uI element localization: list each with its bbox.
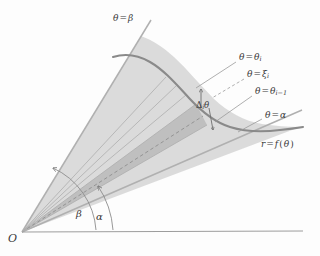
label-angle-beta: β xyxy=(76,209,82,219)
polar-axis xyxy=(22,231,303,232)
label-theta-equals-xi-i: θ=ξi xyxy=(247,70,269,80)
alpha-symbol: α xyxy=(280,110,286,120)
equals-sign: = xyxy=(252,69,262,79)
label-theta-equals-beta: θ=β xyxy=(113,14,133,23)
label-delta-i-theta: Δiθ xyxy=(196,101,209,110)
leader-theta-xi xyxy=(212,79,244,98)
label-angle-alpha: α xyxy=(96,212,103,222)
equals-sign: = xyxy=(270,110,280,120)
label-origin: O xyxy=(8,233,17,244)
leader-theta-i xyxy=(196,62,236,88)
equals-sign: = xyxy=(244,52,254,62)
subscript-i: i xyxy=(267,72,269,80)
subscript-i: i xyxy=(259,55,261,63)
label-theta-equals-alpha: θ=α xyxy=(265,111,286,120)
close-paren: ) xyxy=(289,139,295,149)
equals-sign: = xyxy=(265,139,275,149)
subscript-i-minus-1: i−1 xyxy=(275,89,287,97)
label-theta-equals-theta-i: θ=θi xyxy=(239,53,261,63)
beta-symbol: β xyxy=(128,13,133,23)
label-theta-equals-theta-i-minus-1: θ=θi−1 xyxy=(255,87,287,97)
polar-sector-diagram: θ=β θ=θi θ=ξi θ=θi−1 θ=α r=f(θ) Δiθ β α … xyxy=(0,0,320,256)
theta-symbol: θ xyxy=(204,100,209,110)
equals-sign: = xyxy=(260,86,270,96)
label-curve-equation: r=f(θ) xyxy=(261,140,295,149)
equals-sign: = xyxy=(118,13,128,23)
diagram-canvas xyxy=(0,0,320,256)
